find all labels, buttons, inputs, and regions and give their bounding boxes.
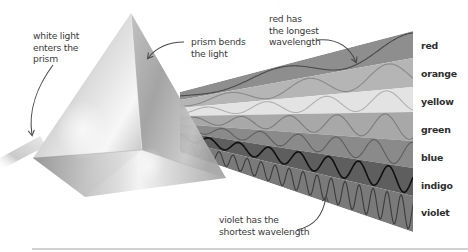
annotation-line: wavelength: [269, 36, 321, 48]
annotation-line: red has: [269, 13, 321, 25]
band-label-orange: orange: [421, 68, 457, 79]
band-label-green: green: [421, 124, 451, 135]
annotation-line: the longest: [269, 25, 321, 37]
white-light-arrow: [31, 65, 53, 135]
band-label-violet: violet: [421, 207, 450, 218]
annotation-violet-shortest: violet has the shortest wavelength: [219, 214, 309, 237]
band-label-blue: blue: [421, 152, 443, 163]
annotation-line: enters the: [33, 42, 79, 54]
annotation-line: prism bends: [191, 36, 246, 48]
annotation-line: prism: [33, 53, 79, 65]
annotation-red-longest: red has the longest wavelength: [269, 13, 321, 48]
annotation-prism-bends: prism bends the light: [191, 36, 246, 59]
band-label-red: red: [421, 40, 438, 51]
band-label-indigo: indigo: [421, 180, 453, 191]
spectrum-fan: [180, 31, 413, 232]
prism-diagram: white light enters the prism prism bends…: [0, 0, 468, 252]
annotation-line: the light: [191, 48, 246, 60]
annotation-white-light: white light enters the prism: [33, 30, 79, 65]
band-label-yellow: yellow: [421, 96, 454, 107]
annotation-line: shortest wavelength: [219, 226, 309, 238]
annotation-line: white light: [33, 30, 79, 42]
annotation-line: violet has the: [219, 214, 309, 226]
bottom-divider: [32, 248, 468, 250]
